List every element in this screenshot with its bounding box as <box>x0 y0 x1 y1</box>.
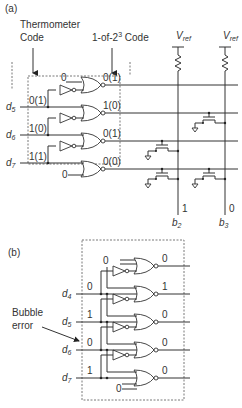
part-b-label: (b) <box>8 247 20 258</box>
input-d6: d6 1(0) <box>6 118 84 141</box>
circuit-diagram: (a) Thermometer Code 1-of-23 Code Vref V… <box>0 0 242 408</box>
const-bottom-a: 0 <box>62 169 68 180</box>
input-b-d6: d6 0 <box>62 327 137 356</box>
nor-gate <box>134 370 158 386</box>
input-d7: d7 1(1) <box>6 146 84 169</box>
const-top-a: 0 <box>61 72 67 83</box>
output-a-1: 1(0) <box>103 100 121 111</box>
output-b-1: 1 <box>162 281 168 292</box>
nor-gate <box>134 342 158 358</box>
part-a-label: (a) <box>5 3 17 14</box>
nor-gate <box>81 77 105 93</box>
thermometer-label: Thermometer <box>20 19 81 30</box>
const-bottom-b: 0 <box>116 383 122 394</box>
inverter <box>113 266 129 276</box>
svg-text:Vref: Vref <box>223 30 239 42</box>
input-d5: d5 0(1) <box>6 90 84 113</box>
inverter <box>60 113 76 123</box>
const-top-b: 0 <box>103 255 109 266</box>
resistor-icon <box>222 55 228 71</box>
nor-gate <box>81 133 105 149</box>
nor-gate <box>134 286 158 302</box>
svg-text:Vref: Vref <box>176 30 192 42</box>
resistor-icon <box>175 55 181 71</box>
inverter <box>113 350 129 360</box>
svg-text:d7: d7 <box>62 372 73 384</box>
output-a-2: 0(1) <box>103 128 121 139</box>
bubble-error-arrow <box>42 327 79 341</box>
input-b-d5: d5 1 <box>62 299 137 328</box>
output-b-0: 0 <box>162 253 168 264</box>
b2-label: b2 <box>172 217 182 229</box>
inverter <box>113 294 129 304</box>
inverter <box>113 322 129 332</box>
nmos-transistor <box>192 168 226 188</box>
nor-gate <box>134 314 158 330</box>
output-b-2: 0 <box>162 309 168 320</box>
svg-text:1: 1 <box>87 309 93 320</box>
nor-gate <box>134 258 158 274</box>
input-b-d4: d4 0 <box>62 271 137 300</box>
nmos-transistor <box>192 112 226 132</box>
nmos-transistor <box>145 140 179 160</box>
output-b-4: 0 <box>162 365 168 376</box>
output-a-0: 0(1) <box>103 72 121 83</box>
svg-text:d5: d5 <box>62 316 72 328</box>
one-of-code-label: 1-of-23 Code <box>92 31 149 43</box>
svg-text:1(0): 1(0) <box>29 123 47 134</box>
svg-text:d6: d6 <box>62 344 72 356</box>
inverter <box>60 141 76 151</box>
svg-text:d5: d5 <box>6 101 16 113</box>
bubble-error-label-2: error <box>12 320 34 331</box>
nor-gate <box>81 105 105 121</box>
bubble-error-label: Bubble <box>12 307 44 318</box>
code-label: Code <box>20 32 44 43</box>
nor-gate <box>81 161 105 177</box>
nmos-transistor <box>145 168 179 188</box>
svg-text:0(1): 0(1) <box>29 95 47 106</box>
vref-b2: Vref <box>172 30 192 215</box>
svg-text:0: 0 <box>87 281 93 292</box>
svg-text:d4: d4 <box>62 288 72 300</box>
svg-text:d7: d7 <box>6 157 17 169</box>
output-a-3: 0(0) <box>103 156 121 167</box>
output-b-3: 0 <box>162 337 168 348</box>
svg-text:d6: d6 <box>6 129 16 141</box>
input-b-d7: d7 1 <box>62 355 137 384</box>
b3-label: b3 <box>219 217 229 229</box>
b2-value: 1 <box>182 203 188 214</box>
svg-text:1: 1 <box>87 365 93 376</box>
b3-value: 0 <box>229 203 235 214</box>
svg-text:1(1): 1(1) <box>29 151 47 162</box>
svg-text:0: 0 <box>87 337 93 348</box>
inverter <box>60 85 76 95</box>
